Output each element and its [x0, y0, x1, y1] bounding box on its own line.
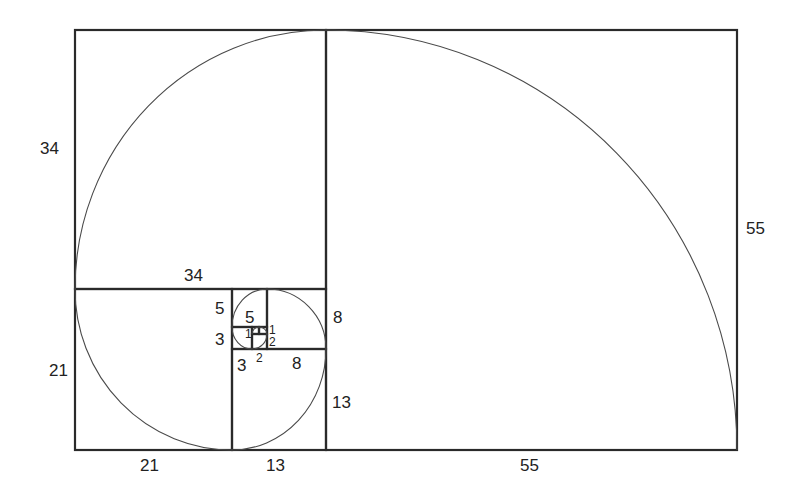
square-34 — [75, 30, 326, 289]
label-5-side: 5 — [215, 299, 224, 318]
labels: 34 34 21 21 13 13 55 55 8 8 5 5 3 3 2 2 … — [40, 139, 765, 475]
golden-spiral-curve — [75, 30, 737, 450]
label-2-side: 2 — [269, 335, 276, 349]
label-21-side: 21 — [49, 361, 68, 380]
label-34-top: 34 — [184, 266, 203, 285]
label-55-side: 55 — [746, 219, 765, 238]
label-1-right: 1 — [269, 323, 276, 337]
label-5-inner: 5 — [245, 308, 254, 327]
square-21 — [75, 289, 232, 450]
label-8-bottom: 8 — [292, 354, 301, 373]
label-13-bottom: 13 — [266, 456, 285, 475]
square-8 — [267, 289, 326, 349]
label-8-side: 8 — [333, 308, 342, 327]
label-2-bottom: 2 — [256, 351, 263, 365]
fibonacci-spiral-diagram: 34 34 21 21 13 13 55 55 8 8 5 5 3 3 2 2 … — [0, 0, 803, 495]
label-3-bottom: 3 — [237, 356, 246, 375]
label-55-bottom: 55 — [520, 456, 539, 475]
label-21-bottom: 21 — [140, 456, 159, 475]
label-1-left: 1 — [245, 327, 252, 341]
label-34-side: 34 — [40, 139, 59, 158]
label-13-side: 13 — [332, 393, 351, 412]
label-3-side: 3 — [215, 330, 224, 349]
squares — [75, 30, 737, 450]
square-55 — [326, 30, 737, 450]
